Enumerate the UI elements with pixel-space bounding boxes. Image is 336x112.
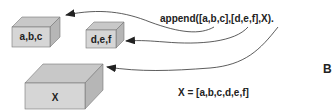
box-x-label: X	[25, 92, 85, 103]
panel-letter: B	[323, 62, 332, 76]
box-abc-label: a,b,c	[12, 31, 50, 42]
arrow-to-x	[107, 27, 278, 71]
append-query: append([a,b,c],[d,e,f],X).	[160, 13, 274, 24]
box-def-label: d,e,f	[86, 34, 116, 45]
arrow-to-def	[126, 27, 248, 43]
result-equation: X = [a,b,c,d,e,f]	[178, 87, 249, 98]
